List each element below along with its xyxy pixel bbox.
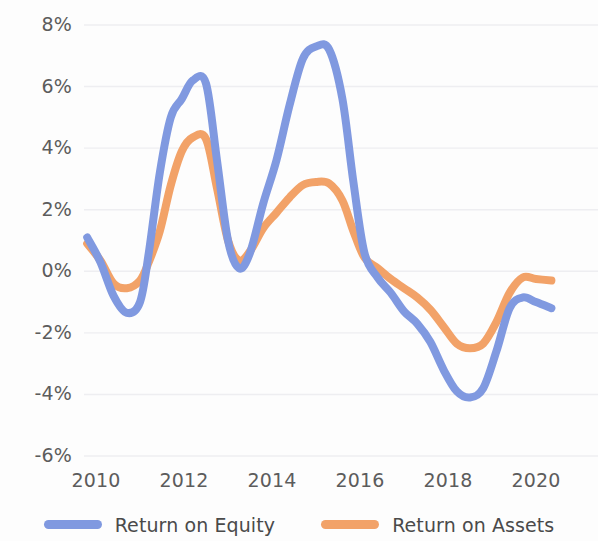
- y-axis-tick-label: -6%: [10, 446, 72, 465]
- legend-color-swatch: [44, 520, 102, 529]
- y-axis-tick-label: 4%: [10, 138, 72, 157]
- x-axis-tick-label: 2014: [247, 469, 296, 491]
- line-chart-plot: [0, 0, 598, 541]
- legend-item-label: Return on Assets: [392, 514, 554, 536]
- y-axis-tick-label: 6%: [10, 77, 72, 96]
- y-axis-tick-label: 8%: [10, 15, 72, 34]
- x-axis-tick-label: 2016: [335, 469, 384, 491]
- chart-container: 8%6%4%2%0%-2%-4%-6% 20102012201420162018…: [0, 0, 598, 541]
- y-axis-tick-label: 2%: [10, 200, 72, 219]
- y-axis-tick-label: 0%: [10, 261, 72, 280]
- x-axis-tick-label: 2020: [511, 469, 560, 491]
- legend-item[interactable]: Return on Equity: [44, 514, 275, 536]
- x-axis-tick-label: 2012: [159, 469, 208, 491]
- series-lines-group: [87, 44, 551, 397]
- legend-color-swatch: [321, 520, 379, 529]
- legend-item[interactable]: Return on Assets: [321, 514, 554, 536]
- x-axis-tick-label: 2018: [423, 469, 472, 491]
- y-axis-tick-label: -2%: [10, 323, 72, 342]
- chart-legend: Return on EquityReturn on Assets: [0, 508, 598, 541]
- y-axis-tick-label: -4%: [10, 384, 72, 403]
- legend-item-label: Return on Equity: [115, 514, 275, 536]
- x-axis-tick-label: 2010: [71, 469, 120, 491]
